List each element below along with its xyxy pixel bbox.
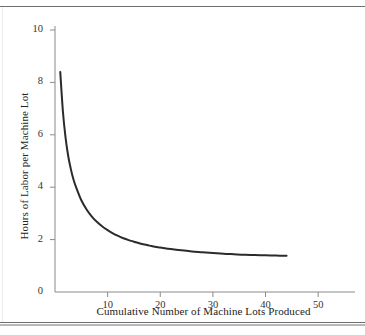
x-tick-label: 10 (98, 299, 118, 310)
series-line (60, 72, 286, 256)
x-tick-label: 20 (150, 299, 170, 310)
figure-bottom-rule-shadow (0, 324, 365, 326)
y-tick-label: 10 (27, 23, 43, 34)
y-tick-label: 8 (27, 75, 43, 86)
y-tick-label: 2 (27, 233, 43, 244)
y-tick-label: 6 (27, 128, 43, 139)
x-tick-label: 40 (256, 299, 276, 310)
chart-axes (50, 26, 355, 297)
y-tick-label: 4 (27, 180, 43, 191)
x-tick-label: 50 (308, 299, 328, 310)
figure-bottom-rule (0, 322, 365, 323)
chart-series (60, 72, 286, 256)
chart-plot-area (0, 0, 365, 335)
learning-curve-figure: Hours of Labor per Machine Lot Cumulativ… (0, 0, 365, 335)
x-tick-label: 30 (203, 299, 223, 310)
y-tick-label: 0 (27, 285, 43, 296)
